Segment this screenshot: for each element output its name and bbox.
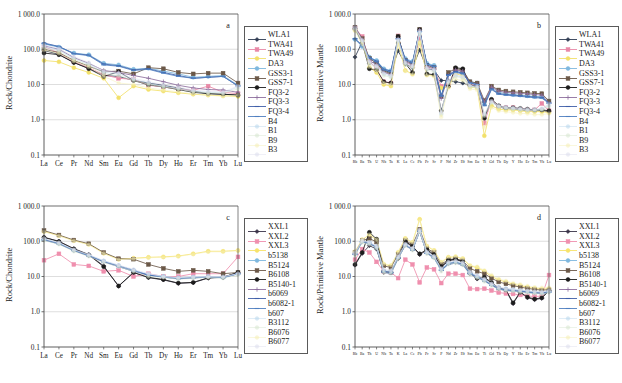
legend-item-wla1[interactable]: WLA1 [558,30,616,40]
svg-text:Yb: Yb [219,352,228,360]
svg-text:K: K [397,160,400,164]
legend-item-b6082-1[interactable]: b6082-1 [247,299,305,309]
legend-marker-dot-icon [558,318,578,327]
svg-text:Ho: Ho [174,160,183,168]
panel-c-svg: 1 000.0100.010.01.00.1LaCePrNdSmEuGdTbDy… [14,198,244,373]
legend-label: GSS3-1 [267,69,293,78]
legend-item-gss3-1[interactable]: GSS3-1 [558,68,616,78]
legend-label: B3112 [578,318,600,327]
svg-text:Er: Er [526,352,530,356]
legend-label: B1 [578,126,588,135]
svg-text:Tm: Tm [203,160,213,168]
legend-item-b4[interactable]: B4 [558,116,616,126]
svg-text:Lu: Lu [547,352,551,356]
legend-item-fq3-4[interactable]: FQ3-4 [247,107,305,117]
legend-label: b6069 [578,289,599,298]
svg-text:La: La [403,352,407,356]
legend-item-gss7-1[interactable]: GSS7-1 [558,78,616,88]
legend-item-xxl2[interactable]: XXL2 [558,232,616,242]
legend-item-b5138[interactable]: b5138 [247,251,305,261]
legend-item-b3[interactable]: B3 [247,145,305,155]
legend-item-fq3-2[interactable]: FQ3-2 [247,88,305,98]
legend-item-b6076[interactable]: B6076 [558,328,616,338]
legend-item-fq3-3[interactable]: FQ3-3 [558,97,616,107]
svg-text:Pr: Pr [425,352,429,356]
panel-d: Rock/Primitive Mantle 1 000.0100.010.01.… [311,192,622,383]
legend-item-b6076[interactable]: B6076 [247,328,305,338]
svg-text:Gd: Gd [129,160,138,168]
legend-marker-line-icon [247,299,267,308]
legend-marker-dot-icon [558,145,578,154]
legend-item-fq3-3[interactable]: FQ3-3 [247,97,305,107]
legend-marker-square-icon [558,69,578,78]
legend-item-b3112[interactable]: B3112 [247,318,305,328]
legend-item-b4[interactable]: B4 [247,116,305,126]
legend-marker-square-icon [247,69,267,78]
svg-text:Lu: Lu [234,160,242,168]
legend-marker-dot-icon [558,126,578,135]
svg-text:Zr: Zr [454,352,458,356]
legend-item-b5138[interactable]: b5138 [558,251,616,261]
legend-marker-dot-icon [558,309,578,318]
svg-text:U: U [375,352,378,356]
legend-item-wla1[interactable]: WLA1 [247,30,305,40]
legend-label: B5124 [578,261,600,270]
legend-item-gss7-1[interactable]: GSS7-1 [247,78,305,88]
svg-text:Yb: Yb [539,352,544,356]
legend-item-b6108[interactable]: B6108 [247,270,305,280]
svg-text:0.1: 0.1 [342,151,352,160]
svg-text:Zr: Zr [454,160,458,164]
legend-item-da3[interactable]: DA3 [247,59,305,69]
legend-item-b3[interactable]: B3 [558,145,616,155]
legend-item-b5124[interactable]: B5124 [247,260,305,270]
panel-d-legend: XXL1XXL2XXL3b5138B5124B6108B5140-1b6069b… [555,218,619,354]
legend-marker-circle-icon [247,78,267,87]
legend-item-twa49[interactable]: TWA49 [247,49,305,59]
legend-marker-circle-icon [558,59,578,68]
legend-item-twa49[interactable]: TWA49 [558,49,616,59]
legend-item-b1[interactable]: B1 [247,126,305,136]
svg-text:Th: Th [367,160,371,164]
legend-item-b607[interactable]: b607 [247,308,305,318]
legend-item-xxl3[interactable]: XXL3 [558,241,616,251]
legend-item-gss3-1[interactable]: GSS3-1 [247,68,305,78]
legend-marker-circle-icon [247,241,267,250]
legend-item-fq3-2[interactable]: FQ3-2 [558,88,616,98]
legend-item-b6077[interactable]: B6077 [558,337,616,347]
svg-text:10.0: 10.0 [27,80,40,89]
legend-item-b1[interactable]: B1 [558,126,616,136]
legend-label: XXL2 [267,232,288,241]
legend-item-b5124[interactable]: B5124 [558,260,616,270]
legend-item-xxl1[interactable]: XXL1 [558,222,616,232]
svg-text:Y: Y [512,160,515,164]
svg-text:Pr: Pr [71,160,78,168]
legend-item-b6108[interactable]: B6108 [558,270,616,280]
legend-item-b6069[interactable]: b6069 [558,289,616,299]
legend-marker-dot-icon [247,309,267,318]
legend-item-b607[interactable]: b607 [558,308,616,318]
legend-item-b6077[interactable]: B6077 [247,337,305,347]
legend-item-twa41[interactable]: TWA41 [247,40,305,50]
legend-label: B9 [267,136,277,145]
legend-item-xxl2[interactable]: XXL2 [247,232,305,242]
legend-item-b5140-1[interactable]: B5140-1 [247,280,305,290]
legend-item-xxl3[interactable]: XXL3 [247,241,305,251]
svg-text:Tb: Tb [144,160,152,168]
svg-text:0.1: 0.1 [31,151,41,160]
svg-text:100.0: 100.0 [334,237,351,246]
legend-item-b3112[interactable]: B3112 [558,318,616,328]
legend-item-b6082-1[interactable]: b6082-1 [558,299,616,309]
legend-item-twa41[interactable]: TWA41 [558,40,616,50]
legend-item-xxl1[interactable]: XXL1 [247,222,305,232]
svg-text:d: d [537,213,541,222]
legend-item-b9[interactable]: B9 [558,136,616,146]
legend-label: XXL1 [267,222,288,231]
legend-item-b9[interactable]: B9 [247,136,305,146]
svg-text:Nb: Nb [381,352,386,356]
svg-text:Er: Er [190,352,197,360]
svg-text:1 000.0: 1 000.0 [329,202,351,211]
legend-item-b6069[interactable]: b6069 [247,289,305,299]
legend-item-b5140-1[interactable]: B5140-1 [558,280,616,290]
legend-item-da3[interactable]: DA3 [558,59,616,69]
legend-item-fq3-4[interactable]: FQ3-4 [558,107,616,117]
